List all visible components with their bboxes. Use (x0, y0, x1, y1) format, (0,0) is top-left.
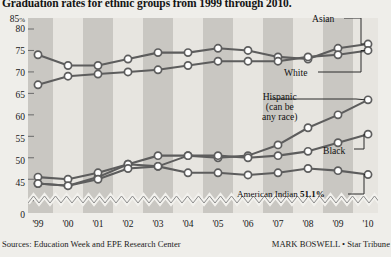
x-tick-01: '01 (92, 219, 103, 229)
data-point-marker (154, 49, 161, 56)
data-point-marker (34, 180, 41, 187)
data-point-marker (304, 165, 311, 172)
data-point-marker (124, 55, 131, 62)
data-point-marker (34, 81, 41, 88)
data-point-marker (154, 66, 161, 73)
data-point-marker (184, 152, 191, 159)
data-point-marker (214, 169, 221, 176)
data-point-marker (274, 169, 281, 176)
percent-sign: % (19, 16, 25, 24)
x-tick-06: '06 (242, 219, 253, 229)
y-tick-65: 65 (16, 90, 26, 100)
x-tick-07: '07 (272, 219, 283, 229)
y-tick-45: 45 (16, 178, 26, 188)
data-point-marker (334, 111, 341, 118)
data-point-marker (244, 154, 251, 161)
data-point-marker (304, 124, 311, 131)
data-point-marker (154, 152, 161, 159)
x-axis-labels: '99 '00 '01 '02 '03 '04 '05 '06 '07 '08 … (28, 219, 378, 235)
data-point-marker (214, 45, 221, 52)
y-tick-60: 60 (16, 112, 26, 122)
background-band (293, 18, 323, 213)
annotation-white: White (284, 68, 307, 78)
x-tick-99: '99 (32, 219, 43, 229)
y-axis-labels: 85% 80 75 70 65 60 55 50 45 0 (0, 14, 27, 226)
data-point-marker (274, 58, 281, 65)
x-tick-04: '04 (182, 219, 193, 229)
x-tick-05: '05 (212, 219, 223, 229)
chart-headline: Graduation rates for ethnic groups from … (2, 0, 389, 9)
x-tick-02: '02 (122, 219, 133, 229)
data-point-marker (364, 131, 371, 138)
data-point-marker (94, 176, 101, 183)
data-point-marker (274, 141, 281, 148)
y-tick-85: 85% (10, 14, 25, 24)
y-tick-70: 70 (16, 68, 26, 78)
data-point-marker (334, 51, 341, 58)
annotation-black: Black (323, 146, 345, 156)
data-point-marker (244, 58, 251, 65)
data-point-marker (154, 163, 161, 170)
data-point-marker (364, 47, 371, 54)
chart-footer: Sources: Education Week and EPE Research… (0, 239, 391, 257)
plot-svg (28, 18, 378, 213)
plot-area (28, 18, 378, 213)
x-tick-00: '00 (62, 219, 73, 229)
credit-text: MARK BOSWELL • Star Tribune (272, 239, 390, 249)
y-tick-55: 55 (16, 134, 26, 144)
data-point-marker (214, 58, 221, 65)
x-tick-10: '10 (362, 219, 373, 229)
data-point-marker (94, 70, 101, 77)
data-point-marker (64, 62, 71, 69)
data-point-marker (304, 53, 311, 60)
graduation-rate-chart: Graduation rates for ethnic groups from … (0, 0, 391, 257)
data-point-marker (244, 47, 251, 54)
background-band (113, 18, 143, 213)
y-tick-50: 50 (16, 156, 26, 166)
data-point-marker (364, 171, 371, 178)
x-tick-03: '03 (152, 219, 163, 229)
data-point-marker (214, 152, 221, 159)
background-band (83, 18, 113, 213)
x-tick-09: '09 (332, 219, 343, 229)
annotation-american-indian-value: 51.1% (300, 189, 325, 199)
background-band (143, 18, 173, 213)
data-point-marker (364, 96, 371, 103)
annotation-hispanic: Hispanic (can be any race) (262, 92, 297, 121)
data-point-marker (34, 51, 41, 58)
annotation-american-indian: American Indian 51.1% (237, 190, 325, 199)
annotation-hispanic-line3: any race) (262, 112, 297, 122)
data-point-marker (94, 62, 101, 69)
y-tick-85-value: 85 (10, 14, 20, 24)
sources-text: Sources: Education Week and EPE Research… (2, 239, 181, 249)
data-point-marker (274, 152, 281, 159)
annotation-asian: Asian (312, 14, 334, 24)
background-band (173, 18, 203, 213)
data-point-marker (184, 49, 191, 56)
y-tick-75: 75 (16, 46, 26, 56)
data-point-marker (124, 68, 131, 75)
data-point-marker (244, 171, 251, 178)
y-tick-80: 80 (16, 24, 26, 34)
data-point-marker (184, 169, 191, 176)
data-point-marker (334, 167, 341, 174)
data-point-marker (304, 148, 311, 155)
annotation-american-indian-label: American Indian (237, 189, 298, 199)
data-point-marker (64, 182, 71, 189)
data-point-marker (64, 73, 71, 80)
data-point-marker (124, 165, 131, 172)
data-point-marker (184, 62, 191, 69)
x-tick-08: '08 (302, 219, 313, 229)
y-tick-0: 0 (20, 210, 25, 220)
